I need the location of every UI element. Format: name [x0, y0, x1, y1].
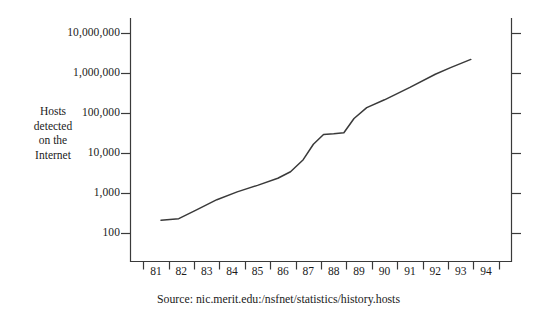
- y-axis-ticks-left: [121, 34, 131, 234]
- y-axis-ticks-right: [512, 34, 522, 234]
- source-caption: Source: nic.merit.edu:/nsfnet/statistics…: [0, 292, 557, 306]
- x-tick-label: 94: [471, 265, 501, 278]
- x-axis-tick-labels: 8182838485868788899091929394: [0, 265, 557, 285]
- chart-figure: 10,000,000 1,000,000 100,000 10,000 1,00…: [0, 0, 557, 317]
- data-series-line: [161, 59, 471, 220]
